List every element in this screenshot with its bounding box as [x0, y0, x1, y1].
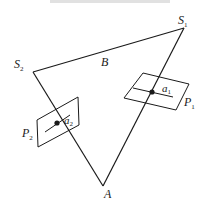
label-a2: a2: [64, 114, 74, 128]
label-b: B: [101, 55, 109, 69]
label-a1: a1: [162, 82, 172, 96]
label-a: A: [103, 187, 112, 201]
label-p2: P2: [21, 126, 33, 142]
point-a2: [54, 120, 59, 125]
label-s2: S2: [14, 57, 24, 73]
plane-p1: [124, 73, 189, 110]
label-p1: P1: [183, 95, 195, 111]
label-s1: S1: [178, 13, 188, 29]
edge-s1-a: [103, 28, 184, 186]
edge-s2-s1: [33, 28, 184, 72]
edge-s2-a: [33, 72, 103, 186]
projection-diagram: S1 S2 B A a1 P1 a2 P2: [0, 0, 206, 209]
point-a1: [149, 89, 154, 94]
